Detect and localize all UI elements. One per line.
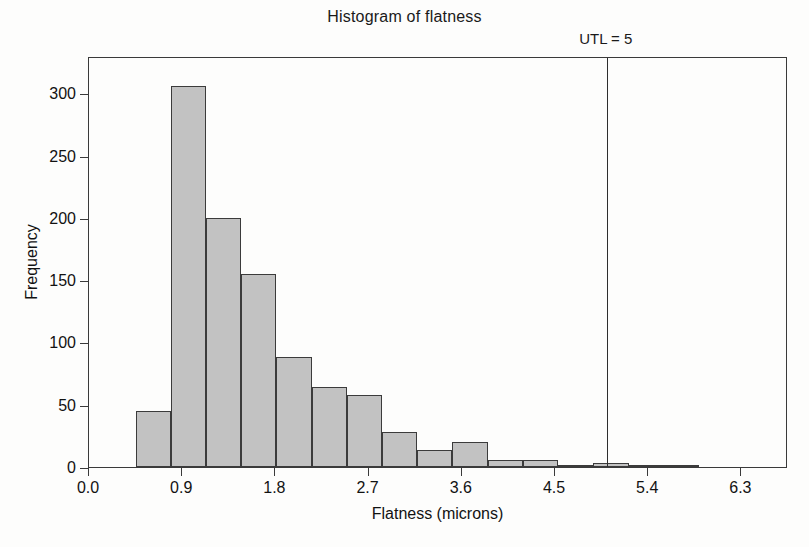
histogram-bar: [523, 460, 558, 467]
y-axis-tick-label: 150: [49, 272, 76, 290]
x-axis-tick: [647, 468, 648, 476]
x-axis-tick-label: 5.4: [636, 479, 658, 497]
histogram-figure: Histogram of flatness UTL = 5 Flatness (…: [0, 0, 809, 547]
y-axis-tick: [80, 343, 88, 344]
y-axis-tick: [80, 219, 88, 220]
histogram-bar: [452, 442, 487, 467]
plot-area: [89, 58, 786, 467]
x-axis-tick: [461, 468, 462, 476]
histogram-bar: [593, 463, 628, 467]
histogram-bar: [488, 460, 523, 467]
x-axis-tick: [368, 468, 369, 476]
x-axis-tick: [740, 468, 741, 476]
utl-reference-line: [607, 58, 608, 467]
x-axis-tick-label: 3.6: [450, 479, 472, 497]
x-axis-tick: [274, 468, 275, 476]
histogram-bar: [241, 274, 276, 467]
x-axis-tick-label: 0.0: [77, 479, 99, 497]
x-axis-tick-label: 0.9: [170, 479, 192, 497]
x-axis-tick: [181, 468, 182, 476]
histogram-bar: [558, 465, 593, 467]
histogram-bar: [312, 387, 347, 467]
chart-title: Histogram of flatness: [0, 8, 809, 26]
y-axis-tick-label: 100: [49, 334, 76, 352]
y-axis-tick: [80, 94, 88, 95]
x-axis-tick-label: 2.7: [356, 479, 378, 497]
x-axis-tick: [554, 468, 555, 476]
histogram-bar: [629, 465, 664, 467]
y-axis-label: Frequency: [23, 152, 41, 372]
y-axis-tick-label: 200: [49, 210, 76, 228]
histogram-bar: [664, 465, 699, 467]
histogram-bar: [382, 432, 417, 467]
plot-frame: [88, 57, 787, 468]
histogram-bar: [136, 411, 171, 467]
y-axis-tick: [80, 468, 88, 469]
x-axis-tick: [88, 468, 89, 476]
histogram-bar: [417, 450, 452, 467]
histogram-bar: [276, 357, 311, 467]
x-axis-tick-label: 6.3: [729, 479, 751, 497]
histogram-bar: [347, 395, 382, 467]
histogram-bar: [171, 86, 206, 467]
y-axis-tick-label: 0: [67, 459, 76, 477]
y-axis-tick-label: 50: [58, 397, 76, 415]
x-axis-label: Flatness (microns): [88, 505, 787, 523]
y-axis-tick: [80, 281, 88, 282]
histogram-bar: [206, 218, 241, 467]
y-axis-tick: [80, 406, 88, 407]
y-axis-tick: [80, 157, 88, 158]
y-axis-tick-label: 250: [49, 148, 76, 166]
x-axis-tick-label: 4.5: [543, 479, 565, 497]
x-axis-tick-label: 1.8: [263, 479, 285, 497]
y-axis-tick-label: 300: [49, 85, 76, 103]
utl-annotation-label: UTL = 5: [579, 30, 632, 47]
